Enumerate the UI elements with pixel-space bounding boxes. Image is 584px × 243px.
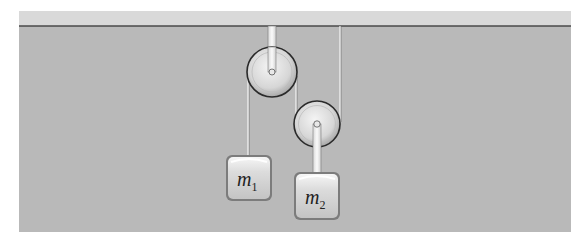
pulley-diagram-canvas: m1 m2 — [0, 0, 584, 243]
mass-block-m2: m2 — [294, 172, 340, 220]
ceiling — [19, 11, 571, 26]
mass-m2-subscript: 2 — [319, 198, 325, 212]
mass-m1-label: m — [237, 168, 251, 190]
fixed-pulley-axle-icon — [269, 69, 275, 75]
mass-block-m1: m1 — [226, 155, 272, 201]
fixed-pulley — [247, 47, 297, 97]
mass-m1-subscript: 1 — [251, 180, 257, 194]
mass-m2-label: m — [305, 186, 319, 208]
movable-pulley-axle-icon — [314, 121, 320, 127]
pulley-diagram: m1 m2 — [0, 0, 584, 243]
movable-pulley-hanger — [313, 124, 321, 174]
